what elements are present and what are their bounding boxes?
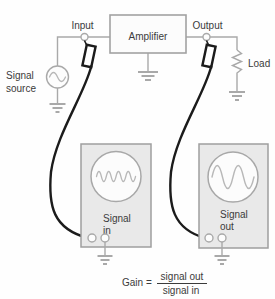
- ground-icon-scope-out: [215, 256, 230, 264]
- output-terminal: [203, 34, 210, 41]
- scope-out-jack-ground: [218, 234, 226, 242]
- ground-icon-load: [229, 92, 245, 100]
- scope-in-jack-signal: [88, 234, 96, 242]
- signal-source-label-line2: source: [6, 83, 36, 94]
- ground-icon-signal-source: [50, 104, 66, 112]
- resistor-icon: [233, 50, 242, 91]
- load-label: Load: [248, 58, 270, 69]
- gain-denominator: signal in: [163, 285, 200, 296]
- scope-out-jack-signal: [205, 234, 213, 242]
- gain-formula: Gain = signal out signal in: [122, 271, 207, 297]
- probe-body-icon: [82, 45, 95, 67]
- input-terminal: [81, 34, 88, 41]
- amplifier-label: Amplifier: [129, 31, 169, 42]
- oscilloscope-signal-out: Signal out: [199, 144, 268, 264]
- oscilloscope-in-label-line1: Signal: [103, 213, 131, 224]
- signal-source-symbol: [47, 66, 69, 88]
- oscilloscope-out-label-line1: Signal: [220, 209, 248, 220]
- scope-in-jack-ground: [101, 234, 109, 242]
- ground-icon-scope-in: [98, 256, 113, 264]
- output-label: Output: [192, 20, 222, 31]
- ground-icon-amplifier: [138, 72, 158, 80]
- input-label: Input: [71, 20, 93, 31]
- circuit-diagram: Signal source Amplifier Input Output Loa…: [0, 0, 275, 299]
- oscilloscope-signal-in: Signal in: [81, 144, 151, 264]
- diagram-canvas: Signal source Amplifier Input Output Loa…: [0, 0, 275, 299]
- gain-prefix: Gain =: [122, 277, 152, 288]
- gain-numerator: signal out: [161, 271, 204, 282]
- probe-body-icon: [202, 45, 215, 67]
- oscilloscope-out-label-line2: out: [220, 221, 234, 232]
- signal-source-label-line1: Signal: [6, 70, 34, 81]
